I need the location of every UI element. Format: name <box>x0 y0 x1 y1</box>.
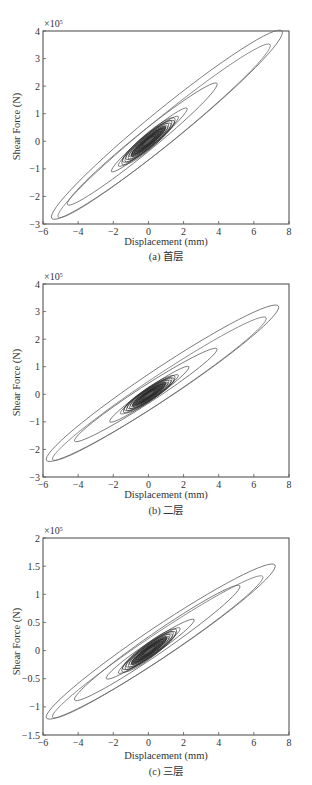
y-tick-label: 2 <box>35 81 40 92</box>
chart-panel-b: −6−4−202468−3−2−101234×105 Shear Force (… <box>0 253 312 515</box>
x-tick-label: 6 <box>251 737 256 748</box>
x-tick-label: 8 <box>287 737 292 748</box>
hysteresis-plot-c: −6−4−202468−1.5−1−0.500.511.52×105 <box>0 508 312 785</box>
y-axis-label: Shear Force (N) <box>11 67 22 187</box>
y-tick-label: 4 <box>35 26 40 37</box>
y-axis-label: Shear Force (N) <box>11 582 22 702</box>
x-axis-label: Displacement (mm) <box>43 236 289 247</box>
hysteresis-loops <box>38 293 287 473</box>
x-tick-label: −2 <box>108 737 119 748</box>
hysteresis-plot-b: −6−4−202468−3−2−101234×105 <box>0 253 312 515</box>
y-tick-label: −3 <box>29 219 40 230</box>
axis-multiplier: ×105 <box>44 18 63 29</box>
y-tick-label: 1 <box>35 108 40 119</box>
y-tick-label: 2 <box>35 533 40 544</box>
y-tick-label: −1 <box>29 163 40 174</box>
y-tick-label: −1 <box>29 416 40 427</box>
y-tick-label: 0 <box>35 389 40 400</box>
y-tick-label: −2 <box>29 191 40 202</box>
y-tick-label: −1.5 <box>22 730 40 741</box>
y-tick-label: 1 <box>35 589 40 600</box>
y-tick-label: −2 <box>29 444 40 455</box>
x-tick-label: −4 <box>73 737 84 748</box>
y-tick-label: −0.5 <box>22 673 40 684</box>
y-tick-label: 0 <box>35 136 40 147</box>
panel-caption: (c) 三层 <box>43 763 289 778</box>
hysteresis-plot-a: −6−4−202468−3−2−101234×105 <box>0 0 312 260</box>
y-axis-label: Shear Force (N) <box>11 323 22 443</box>
hysteresis-loops <box>38 552 283 730</box>
y-tick-label: 0 <box>35 645 40 656</box>
y-tick-label: 1 <box>35 361 40 372</box>
x-tick-label: 4 <box>216 737 221 748</box>
y-tick-label: 0.5 <box>28 617 41 628</box>
y-tick-label: −3 <box>29 472 40 483</box>
y-tick-label: 1.5 <box>28 561 41 572</box>
y-tick-label: 2 <box>35 334 40 345</box>
chart-panel-a: −6−4−202468−3−2−101234×105 Shear Force (… <box>0 0 312 260</box>
hysteresis-loops <box>41 18 292 231</box>
y-tick-label: 4 <box>35 279 40 290</box>
x-tick-label: 0 <box>146 737 151 748</box>
x-tick-label: 2 <box>181 737 186 748</box>
y-tick-label: −1 <box>29 701 40 712</box>
chart-panel-c: −6−4−202468−1.5−1−0.500.511.52×105 Shear… <box>0 508 312 785</box>
axis-multiplier: ×105 <box>44 525 63 536</box>
y-tick-label: 3 <box>35 53 40 64</box>
x-axis-label: Displacement (mm) <box>43 750 289 761</box>
x-axis-label: Displacement (mm) <box>43 489 289 500</box>
y-tick-label: 3 <box>35 306 40 317</box>
axis-multiplier: ×105 <box>44 271 63 282</box>
